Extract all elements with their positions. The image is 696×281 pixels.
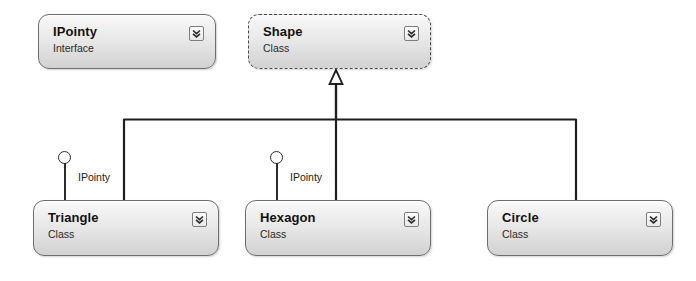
chevron-double-down-icon[interactable] bbox=[404, 212, 419, 227]
inheritance-arrowhead-icon bbox=[330, 70, 343, 84]
class-node-triangle[interactable]: Triangle Class bbox=[33, 200, 219, 256]
lollipop-label: IPointy bbox=[78, 171, 110, 183]
lollipop-label: IPointy bbox=[290, 171, 322, 183]
class-node-hexagon[interactable]: Hexagon Class bbox=[245, 200, 431, 256]
node-stereotype: Interface bbox=[53, 42, 94, 54]
class-node-shape[interactable]: Shape Class bbox=[248, 14, 431, 69]
node-title: IPointy bbox=[53, 24, 97, 39]
chevron-double-down-icon[interactable] bbox=[192, 212, 207, 227]
class-node-ipointy[interactable]: IPointy Interface bbox=[38, 14, 216, 69]
node-title: Circle bbox=[502, 210, 539, 225]
node-stereotype: Class bbox=[263, 42, 289, 54]
chevron-double-down-icon[interactable] bbox=[189, 26, 204, 41]
node-stereotype: Class bbox=[502, 228, 528, 240]
node-stereotype: Class bbox=[260, 228, 286, 240]
chevron-double-down-icon[interactable] bbox=[404, 26, 419, 41]
class-node-circle[interactable]: Circle Class bbox=[487, 200, 673, 256]
node-title: Shape bbox=[263, 24, 303, 39]
class-diagram-canvas: IPointy IPointy IPointy Interface Shape … bbox=[0, 0, 696, 281]
chevron-double-down-icon[interactable] bbox=[646, 212, 661, 227]
node-title: Hexagon bbox=[260, 210, 316, 225]
node-stereotype: Class bbox=[48, 228, 74, 240]
node-title: Triangle bbox=[48, 210, 99, 225]
